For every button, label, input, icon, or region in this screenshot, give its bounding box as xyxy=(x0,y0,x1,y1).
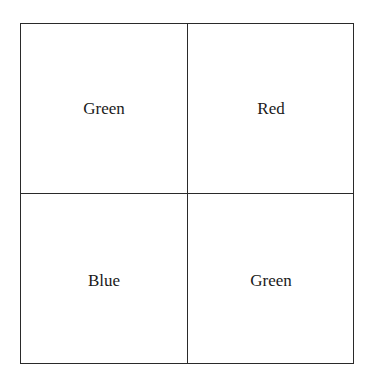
cell-label: Green xyxy=(250,271,292,291)
cell-label: Green xyxy=(83,99,125,119)
cell-label: Blue xyxy=(88,271,120,291)
cell-bottom-right: Green xyxy=(188,194,354,363)
cell-label: Red xyxy=(257,99,284,119)
cell-bottom-left: Blue xyxy=(21,194,187,363)
color-grid: Green Red Blue Green xyxy=(20,23,354,364)
cell-top-right: Red xyxy=(188,24,354,193)
cell-top-left: Green xyxy=(21,24,187,193)
